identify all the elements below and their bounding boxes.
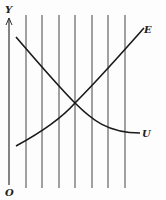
- curve-e-label: E: [143, 24, 152, 35]
- diagram: Y O U E: [0, 0, 166, 200]
- y-axis-label: Y: [5, 4, 13, 15]
- curve-u-label: U: [142, 128, 152, 139]
- origin-label: O: [5, 187, 14, 198]
- curve-u: [16, 37, 140, 133]
- diagram-canvas: Y O U E: [0, 0, 166, 200]
